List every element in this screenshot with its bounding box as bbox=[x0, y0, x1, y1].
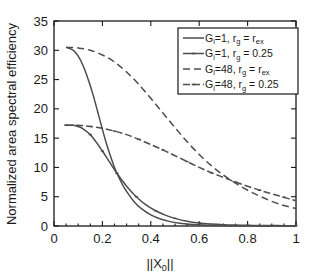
y-tick-label: 5 bbox=[41, 189, 48, 204]
x-tick-label: 0.6 bbox=[190, 231, 208, 246]
y-tick-label: 25 bbox=[34, 72, 48, 87]
y-tick-label: 30 bbox=[34, 43, 48, 58]
x-axis-title-main: ||X bbox=[146, 256, 162, 271]
y-tick-label: 0 bbox=[41, 219, 48, 234]
y-tick-label: 35 bbox=[34, 14, 48, 29]
x-tick-label: 0.4 bbox=[142, 231, 160, 246]
x-tick-label: 0 bbox=[50, 231, 57, 246]
y-tick-label: 10 bbox=[34, 160, 48, 175]
legend: Gi=1, rg = rexGi=1, rg = 0.25Gi=48, rg =… bbox=[178, 28, 298, 94]
x-tick-label: 0.8 bbox=[239, 231, 257, 246]
y-axis-title: Normalized area spectral efficiency bbox=[4, 22, 19, 225]
x-axis-title-tail: || bbox=[167, 256, 174, 271]
y-tick-label: 15 bbox=[34, 131, 48, 146]
x-tick-label: 1 bbox=[292, 231, 299, 246]
x-axis-title: ||X0|| bbox=[146, 256, 173, 273]
svg-text:||X0||: ||X0|| bbox=[146, 256, 173, 273]
line-chart: 00.20.40.60.81 05101520253035 Gi=1, rg =… bbox=[0, 0, 314, 279]
chart-figure: 00.20.40.60.81 05101520253035 Gi=1, rg =… bbox=[0, 0, 314, 279]
y-tick-label: 20 bbox=[34, 101, 48, 116]
x-tick-label: 0.2 bbox=[93, 231, 111, 246]
